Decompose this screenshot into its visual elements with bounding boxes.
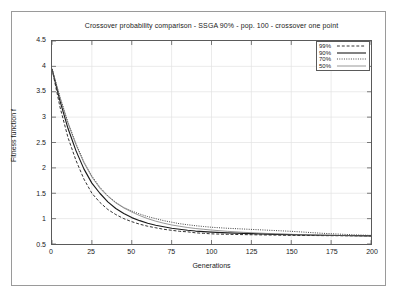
- legend-line-sample-90: [336, 50, 367, 56]
- legend-item: 50%: [319, 63, 367, 70]
- x-tick-label: 50: [116, 248, 146, 255]
- legend-line-sample-70: [336, 56, 367, 62]
- y-tick-label: 1: [42, 215, 46, 222]
- x-tick-label: 0: [36, 248, 66, 255]
- y-tick-label: 4: [42, 62, 46, 69]
- x-tick-label: 200: [357, 248, 387, 255]
- x-tick-label: 150: [277, 248, 307, 255]
- plot-svg: [52, 41, 371, 244]
- y-tick-label: 3.5: [36, 87, 46, 94]
- y-tick-label: 4.5: [36, 36, 46, 43]
- y-tick-label: 0.5: [36, 241, 46, 248]
- y-tick-label: 3: [42, 113, 46, 120]
- x-tick-label: 100: [197, 248, 227, 255]
- x-tick-label: 125: [237, 248, 267, 255]
- y-tick-label: 2: [42, 164, 46, 171]
- chart-title: Crossover probability comparison - SSGA …: [51, 22, 372, 29]
- figure-canvas: Crossover probability comparison - SSGA …: [0, 0, 398, 298]
- legend-line-sample-99: [336, 43, 367, 49]
- y-axis-label: Fitness function f: [10, 96, 17, 176]
- legend-box: 99% 90% 70% 50%: [316, 41, 370, 71]
- x-tick-label: 175: [317, 248, 347, 255]
- x-axis-label: Generations: [51, 262, 372, 269]
- y-tick-label: 1.5: [36, 190, 46, 197]
- legend-line-sample-50: [336, 63, 367, 69]
- legend-label: 50%: [319, 63, 336, 70]
- gridlines: [52, 41, 371, 244]
- x-tick-label: 75: [156, 248, 186, 255]
- x-tick-label: 25: [76, 248, 106, 255]
- y-tick-label: 2.5: [36, 139, 46, 146]
